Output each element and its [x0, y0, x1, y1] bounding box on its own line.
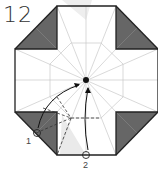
center-point — [83, 77, 89, 83]
origami-diagram: 1 2 — [0, 0, 158, 177]
ghost-shape-top — [62, 0, 92, 20]
label-2: 2 — [83, 160, 88, 170]
label-1: 1 — [26, 136, 31, 146]
arrow-2 — [85, 88, 88, 150]
